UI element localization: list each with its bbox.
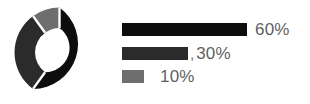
donut-chart [13,6,106,99]
donut-chart-svg [13,6,106,99]
donut-slices [15,8,79,89]
donut-chart-figure: 60% , 30% 10% [0,0,310,104]
chart-legend: 60% , 30% 10% [122,17,308,87]
legend-label-10: 10% [160,68,195,85]
legend-swatch-10 [122,70,144,83]
legend-label-60: 60% [255,21,290,38]
legend-item-30[interactable]: , 30% [122,45,231,61]
legend-separator-30: , [188,46,195,61]
legend-item-10[interactable]: 10% [122,68,195,84]
legend-item-60[interactable]: 60% [122,21,290,37]
legend-swatch-60 [122,23,247,36]
legend-label-30: 30% [196,45,231,62]
legend-swatch-30 [122,47,188,60]
